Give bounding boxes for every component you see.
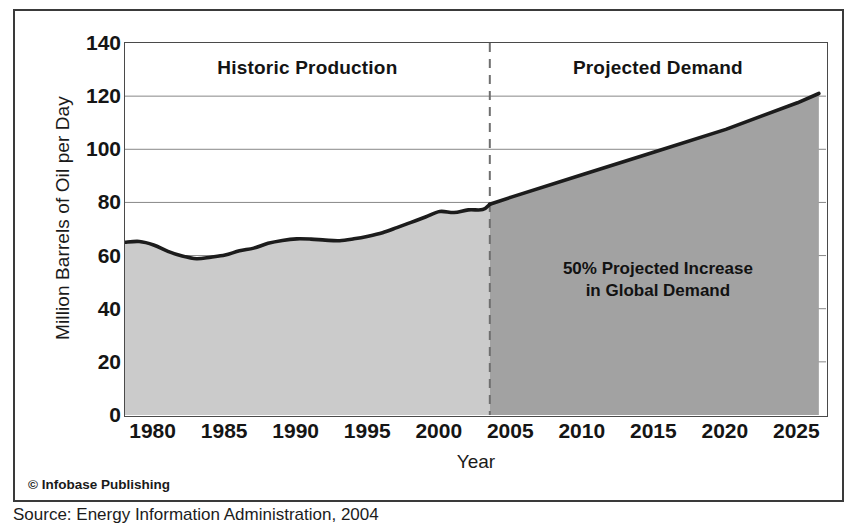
y-tick-label: 20: [31, 350, 121, 371]
source-caption: Source: Energy Information Administratio…: [13, 505, 379, 525]
area-projected-demand: [490, 93, 819, 415]
y-tick-label: 100: [31, 138, 121, 159]
y-tick-label: 60: [31, 244, 121, 265]
plot-area: Historic Production Projected Demand 50%…: [124, 42, 828, 417]
heading-projected-demand: Projected Demand: [490, 57, 826, 79]
heading-historic-production: Historic Production: [125, 57, 490, 79]
area-historic-production: [125, 204, 490, 415]
chart-canvas: [125, 43, 826, 415]
chart-frame: Million Barrels of Oil per Day 020406080…: [13, 9, 844, 502]
x-axis-title: Year: [124, 451, 828, 473]
y-tick-label: 40: [31, 297, 121, 318]
copyright-notice: © Infobase Publishing: [28, 477, 170, 492]
y-tick-label: 140: [31, 32, 121, 53]
x-axis-tick-labels: 1980198519901995200020052010201520202025: [124, 420, 828, 448]
annotation-projected-increase: 50% Projected Increase in Global Demand: [490, 258, 826, 303]
y-axis-tick-labels: 020406080100120140: [31, 33, 121, 417]
x-tick-label: 2025: [736, 420, 856, 441]
y-tick-label: 120: [31, 85, 121, 106]
y-tick-label: 80: [31, 191, 121, 212]
